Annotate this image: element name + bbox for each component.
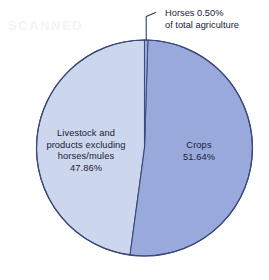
horses-leader-line [146,13,156,41]
slice-label-crops: Crops 51.64% [160,140,238,163]
pie-chart: SCANNED Livestock and products excluding… [0,0,269,280]
slice-callout-horses: Horses 0.50% of total agriculture [165,7,269,31]
slice-label-livestock: Livestock and products excluding horses/… [34,128,138,174]
